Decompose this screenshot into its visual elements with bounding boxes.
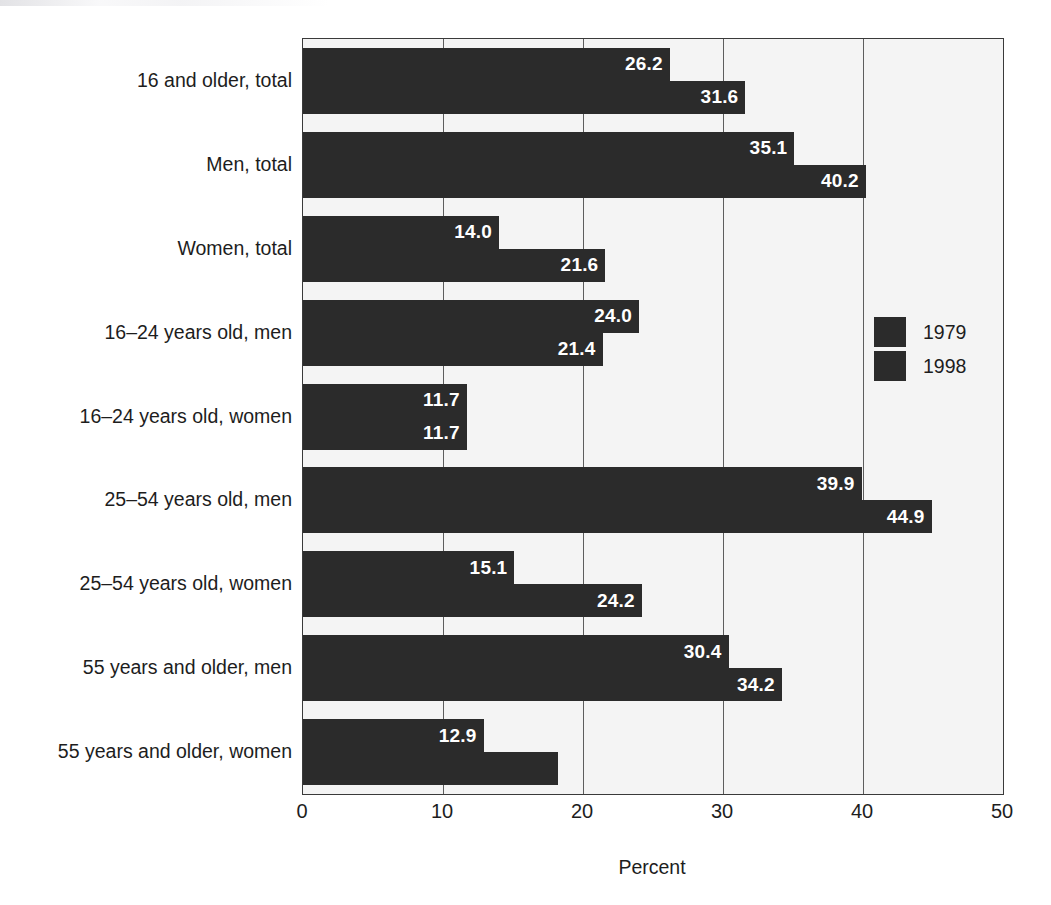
bar: 30.4 <box>303 635 729 668</box>
x-tick-label: 10 <box>431 800 453 823</box>
category-label: 25–54 years old, men <box>0 488 292 510</box>
legend: 1979 1998 <box>874 315 994 383</box>
bar-value-label: 21.4 <box>558 338 596 360</box>
legend-item-1979: 1979 <box>874 315 994 349</box>
x-tick-label: 30 <box>711 800 733 823</box>
bar: 11.7 <box>303 384 467 417</box>
legend-swatch-1998 <box>874 351 906 381</box>
bar-value-label: 26.2 <box>625 53 663 75</box>
bar-value-label: 30.4 <box>684 641 722 663</box>
bar: 44.9 <box>303 500 932 533</box>
bar-value-label: 35.1 <box>750 137 788 159</box>
bar-value-label: 24.2 <box>597 590 635 612</box>
bar-value-label: 39.9 <box>817 473 855 495</box>
category-label: Men, total <box>0 153 292 175</box>
bar: 39.9 <box>303 467 862 500</box>
x-tick-label: 20 <box>571 800 593 823</box>
bar: 34.2 <box>303 668 782 701</box>
bar <box>303 752 558 785</box>
x-tick-label: 40 <box>851 800 873 823</box>
bar: 40.2 <box>303 165 866 198</box>
category-label: 16 and older, total <box>0 69 292 91</box>
bar: 14.0 <box>303 216 499 249</box>
bar-value-label: 14.0 <box>454 221 492 243</box>
chart-figure: 16 and older, totalMen, totalWomen, tota… <box>0 0 1051 905</box>
bar: 24.2 <box>303 584 642 617</box>
category-axis-labels: 16 and older, totalMen, totalWomen, tota… <box>0 38 292 793</box>
category-label: 16–24 years old, men <box>0 321 292 343</box>
category-label: 55 years and older, men <box>0 656 292 678</box>
x-axis-title: Percent <box>302 856 1002 879</box>
x-tick-label: 0 <box>296 800 307 823</box>
bar-value-label: 21.6 <box>561 254 599 276</box>
scan-artifact <box>0 0 330 6</box>
category-label: Women, total <box>0 237 292 259</box>
bar-value-label: 11.7 <box>423 422 460 444</box>
plot-area: 26.231.635.140.214.021.624.021.411.711.7… <box>302 38 1004 795</box>
bar-value-label: 24.0 <box>594 305 632 327</box>
bar-value-label: 11.7 <box>423 389 460 411</box>
bar: 12.9 <box>303 719 484 752</box>
bar: 31.6 <box>303 81 745 114</box>
bar-value-label: 34.2 <box>737 674 775 696</box>
category-label: 25–54 years old, women <box>0 572 292 594</box>
bar: 21.6 <box>303 249 605 282</box>
gridline-40 <box>863 39 864 794</box>
bar: 35.1 <box>303 132 794 165</box>
bar-value-label: 15.1 <box>470 557 508 579</box>
bar-value-label: 31.6 <box>701 86 739 108</box>
bar: 26.2 <box>303 48 670 81</box>
bar-value-label: 44.9 <box>887 506 925 528</box>
legend-swatch-1979 <box>874 317 906 347</box>
bar: 15.1 <box>303 551 514 584</box>
bar-value-label: 12.9 <box>439 725 477 747</box>
bar: 11.7 <box>303 417 467 450</box>
bar-value-label: 40.2 <box>821 170 859 192</box>
bar: 21.4 <box>303 333 603 366</box>
legend-label-1998: 1998 <box>923 355 966 378</box>
category-label: 55 years and older, women <box>0 740 292 762</box>
bar: 24.0 <box>303 300 639 333</box>
legend-label-1979: 1979 <box>923 321 966 344</box>
x-tick-label: 50 <box>991 800 1013 823</box>
category-label: 16–24 years old, women <box>0 405 292 427</box>
legend-item-1998: 1998 <box>874 349 994 383</box>
x-axis-ticks: 01020304050 <box>302 800 1002 832</box>
